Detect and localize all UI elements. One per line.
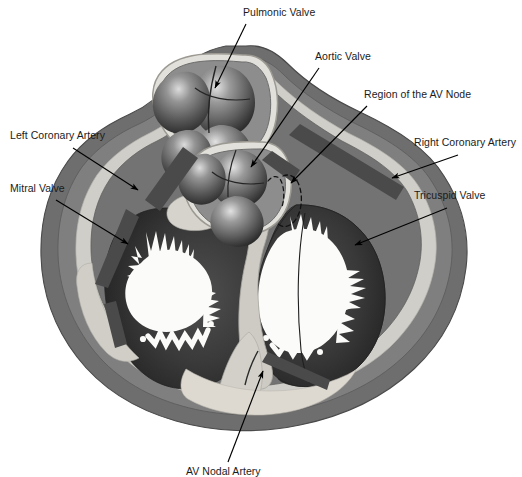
label-av-nodal-artery: AV Nodal Artery xyxy=(186,465,261,477)
label-mitral-valve: Mitral Valve xyxy=(10,182,65,194)
label-tricuspid-valve: Tricuspid Valve xyxy=(414,189,485,201)
label-aortic-valve: Aortic Valve xyxy=(315,50,371,62)
label-left-coronary-artery: Left Coronary Artery xyxy=(10,129,105,141)
label-region-of-the-av-node: Region of the AV Node xyxy=(364,88,471,100)
label-right-coronary-artery: Right Coronary Artery xyxy=(414,136,516,148)
label-pulmonic-valve: Pulmonic Valve xyxy=(243,6,315,18)
